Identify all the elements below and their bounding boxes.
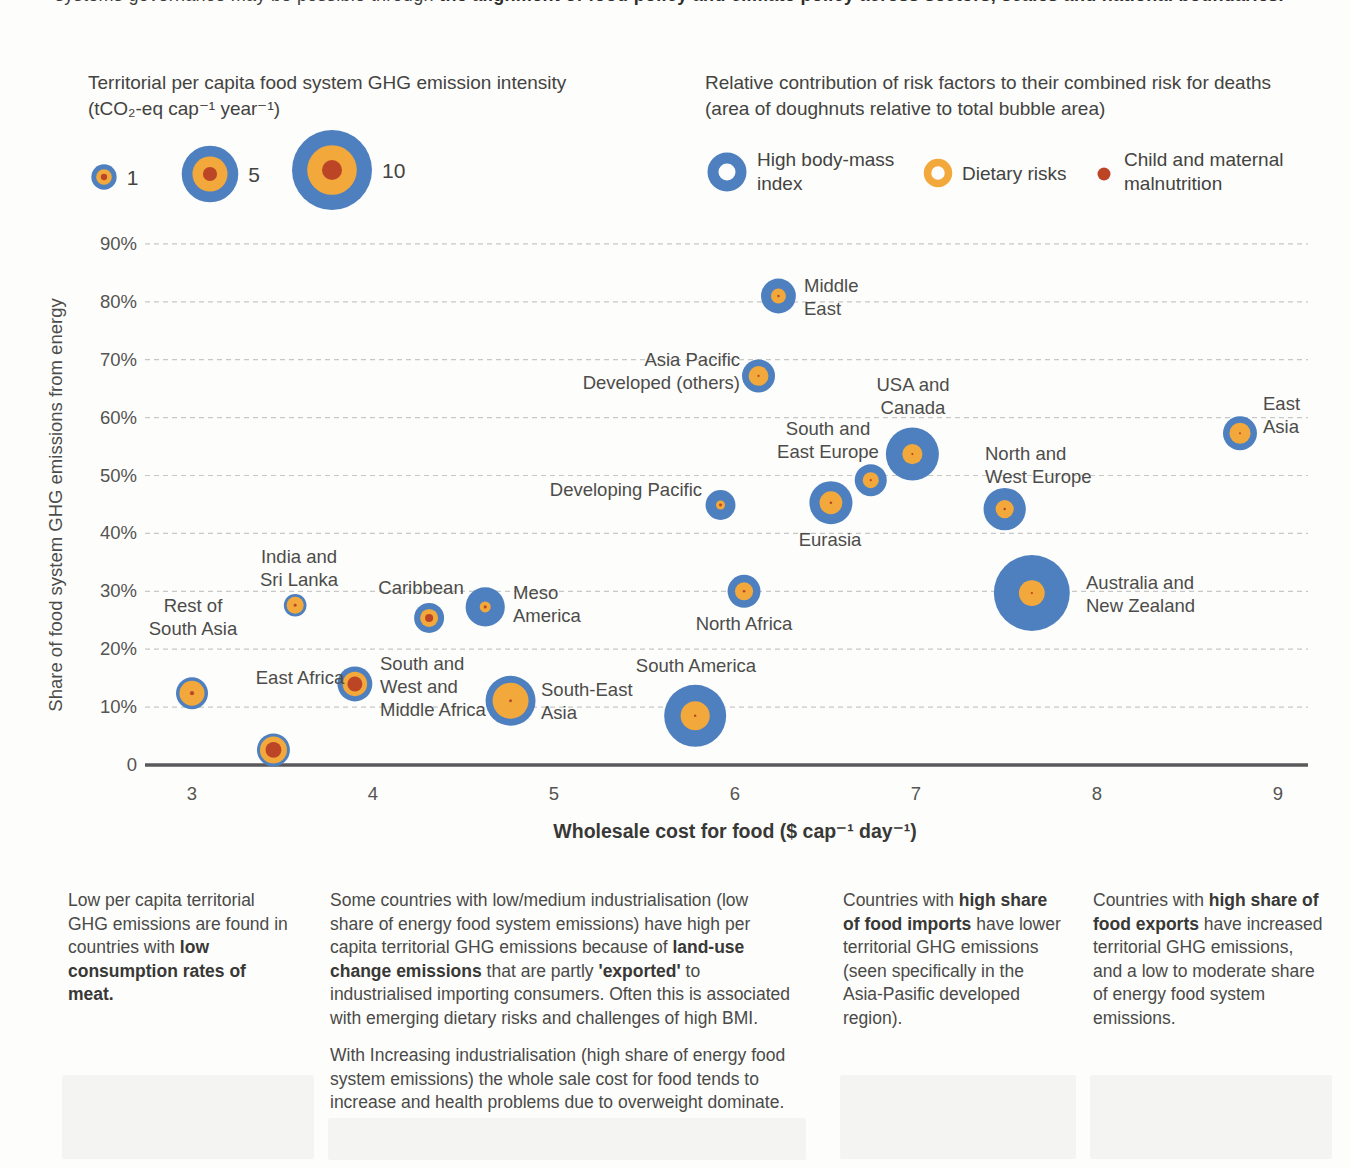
note-paragraph: With Increasing industrialisation (high … bbox=[330, 1044, 794, 1115]
y-tick-label-60: 60% bbox=[100, 407, 137, 428]
region-label-north-africa: North Africa bbox=[696, 613, 793, 634]
region-label-usa-and-canada: USA andCanada bbox=[876, 374, 949, 418]
region-label-asia-pacific-developed-others: Asia PacificDeveloped (others) bbox=[583, 349, 740, 393]
region-bubble-india-and-sri-lanka bbox=[284, 594, 307, 617]
region-bubble-caribbean bbox=[414, 603, 444, 633]
malnutrition-dot bbox=[484, 605, 487, 608]
region-bubble-rest-of-south-asia bbox=[176, 677, 208, 709]
y-tick-label-30: 30% bbox=[100, 580, 137, 601]
y-tick-label-50: 50% bbox=[100, 465, 137, 486]
region-label-south-and-west-and-middle-africa: South andWest andMiddle Africa bbox=[380, 653, 487, 720]
region-bubble-middle-east bbox=[761, 279, 796, 314]
note-paragraph: Some countries with low/medium industria… bbox=[330, 889, 794, 1030]
region-bubble-north-africa bbox=[728, 575, 761, 608]
malnutrition-dot bbox=[743, 590, 746, 593]
scan-artifact bbox=[840, 1075, 1076, 1159]
region-label-east-asia: EastAsia bbox=[1263, 393, 1300, 437]
child-maternal-malnutrition-icon bbox=[1098, 168, 1111, 181]
region-bubble-meso-america bbox=[466, 587, 505, 626]
region-bubble-eurasia bbox=[809, 481, 852, 524]
y-tick-label-90: 90% bbox=[100, 233, 137, 254]
malnutrition-dot bbox=[425, 614, 433, 622]
region-label-rest-of-south-asia: Rest ofSouth Asia bbox=[149, 595, 238, 639]
y-tick-label-40: 40% bbox=[100, 522, 137, 543]
region-label-meso-america: MesoAmerica bbox=[513, 582, 582, 626]
region-bubble-north-and-west-europe bbox=[984, 488, 1026, 530]
region-label-developing-pacific: Developing Pacific bbox=[550, 479, 702, 500]
malnutrition-dot bbox=[322, 160, 342, 180]
malnutrition-dot bbox=[719, 504, 722, 507]
malnutrition-dot bbox=[294, 604, 297, 607]
region-label-north-and-west-europe: North andWest Europe bbox=[985, 443, 1092, 487]
note-low-meat-consumption: Low per capita territorial GHG emissions… bbox=[68, 889, 288, 1021]
x-axis-title: Wholesale cost for food ($ cap⁻¹ day⁻¹) bbox=[553, 820, 916, 842]
y-tick-label-70: 70% bbox=[100, 349, 137, 370]
region-bubble-usa-and-canada bbox=[886, 428, 939, 481]
malnutrition-dot bbox=[266, 742, 282, 758]
region-label-east-africa: East Africa bbox=[256, 667, 345, 688]
region-label-middle-east: MiddleEast bbox=[804, 275, 859, 319]
risk-legend-label: Child and maternal bbox=[1124, 149, 1283, 170]
risk-legend-item-high-bmi: High body-massindex bbox=[713, 149, 894, 194]
bubble-scatter-chart: 1510High body-massindexDietary risksChil… bbox=[0, 0, 1350, 862]
note-industrialisation: Some countries with low/medium industria… bbox=[330, 889, 794, 1129]
size-legend-bubble-1: 1 bbox=[91, 164, 138, 189]
risk-legend-item-dietary-risks: Dietary risks bbox=[928, 163, 1067, 185]
region-label-australia-and-new-zealand: Australia andNew Zealand bbox=[1086, 572, 1195, 616]
region-bubble-south-america bbox=[664, 685, 726, 747]
region-bubble-south-and-east-europe bbox=[855, 464, 887, 496]
malnutrition-dot bbox=[870, 479, 872, 481]
region-bubble-developing-pacific bbox=[706, 490, 736, 520]
y-tick-label-10: 10% bbox=[100, 696, 137, 717]
note-paragraph: Countries with high share of food export… bbox=[1093, 889, 1325, 1030]
y-axis-title: Share of food system GHG emissions from … bbox=[45, 298, 66, 712]
note-paragraph: Countries with high share of food import… bbox=[843, 889, 1065, 1030]
malnutrition-dot bbox=[203, 167, 217, 181]
y-tick-label-20: 20% bbox=[100, 638, 137, 659]
malnutrition-dot bbox=[777, 295, 779, 297]
risk-legend-label: High body-mass bbox=[757, 149, 894, 170]
note-food-imports: Countries with high share of food import… bbox=[843, 889, 1065, 1044]
scan-artifact bbox=[62, 1075, 314, 1159]
x-tick-label-4: 4 bbox=[368, 783, 378, 804]
note-food-exports: Countries with high share of food export… bbox=[1093, 889, 1325, 1044]
malnutrition-dot bbox=[830, 501, 833, 504]
x-tick-label-6: 6 bbox=[730, 783, 740, 804]
malnutrition-dot bbox=[1031, 592, 1033, 594]
region-bubble-east-africa bbox=[257, 733, 290, 766]
risk-legend-label: index bbox=[757, 173, 803, 194]
size-legend-value-label: 5 bbox=[248, 163, 260, 186]
size-legend-value-label: 10 bbox=[382, 159, 405, 182]
scan-artifact bbox=[1090, 1075, 1332, 1159]
region-label-south-and-east-europe: South andEast Europe bbox=[777, 418, 879, 462]
size-legend-value-label: 1 bbox=[127, 166, 139, 189]
malnutrition-dot bbox=[694, 715, 696, 717]
malnutrition-dot bbox=[1003, 508, 1006, 511]
scan-artifact bbox=[328, 1118, 806, 1160]
note-paragraph: Low per capita territorial GHG emissions… bbox=[68, 889, 288, 1007]
risk-legend-label: malnutrition bbox=[1124, 173, 1222, 194]
region-bubble-asia-pacific-developed-others bbox=[742, 359, 775, 392]
region-bubble-south-east-asia bbox=[486, 676, 536, 726]
malnutrition-dot bbox=[1239, 432, 1241, 434]
malnutrition-dot bbox=[911, 453, 913, 455]
region-label-caribbean: Caribbean bbox=[378, 577, 463, 598]
size-legend-bubble-5: 5 bbox=[182, 146, 260, 203]
x-tick-label-3: 3 bbox=[187, 783, 197, 804]
y-tick-label-80: 80% bbox=[100, 291, 137, 312]
risk-legend-item-child-maternal-malnutrition: Child and maternalmalnutrition bbox=[1098, 149, 1284, 194]
x-tick-label-9: 9 bbox=[1273, 783, 1283, 804]
region-label-india-and-sri-lanka: India andSri Lanka bbox=[260, 546, 339, 590]
x-tick-label-5: 5 bbox=[549, 783, 559, 804]
malnutrition-dot bbox=[509, 699, 512, 702]
y-tick-label-0: 0 bbox=[127, 754, 137, 775]
region-bubble-australia-and-new-zealand bbox=[994, 555, 1070, 631]
malnutrition-dot bbox=[347, 676, 362, 691]
malnutrition-dot bbox=[190, 691, 194, 695]
malnutrition-dot bbox=[757, 375, 759, 377]
malnutrition-dot bbox=[101, 174, 107, 180]
dietary-risks-icon bbox=[928, 163, 949, 184]
high-bmi-icon bbox=[713, 158, 741, 186]
region-label-south-america: South America bbox=[636, 655, 757, 676]
size-legend-bubble-10: 10 bbox=[292, 130, 405, 210]
